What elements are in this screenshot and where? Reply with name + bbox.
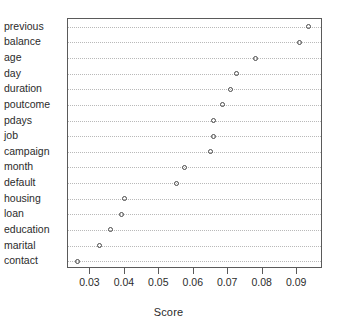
x-tick-mark [262,268,263,274]
data-point-education [108,227,113,232]
y-axis-labels: previousbalanceagedaydurationpoutcomepda… [0,18,63,268]
data-point-job [211,134,216,139]
data-point-age [253,56,258,61]
x-tick-mark [124,268,125,274]
y-tick-label-marital: marital [4,239,36,250]
y-tick-label-loan: loan [4,208,24,219]
y-tick-label-day: day [4,67,21,78]
y-tick-label-duration: duration [4,83,42,94]
data-point-previous [306,24,311,29]
dotplot-figure: previousbalanceagedaydurationpoutcomepda… [0,0,337,332]
x-axis: 0.030.040.050.060.070.080.09 [67,268,322,298]
y-tick-label-previous: previous [4,21,44,32]
data-point-poutcome [220,102,225,107]
y-tick-label-month: month [4,161,33,172]
y-tick-label-age: age [4,52,22,63]
data-point-campaign [208,149,213,154]
x-tick-mark [158,268,159,274]
data-point-duration [228,87,233,92]
x-tick-label: 0.04 [114,276,134,288]
y-tick-label-balance: balance [4,36,41,47]
data-point-month [182,165,187,170]
x-axis-title: Score [0,306,337,318]
data-point-default [174,181,179,186]
plot-frame [67,18,322,268]
x-tick-mark [296,268,297,274]
y-tick-label-campaign: campaign [4,146,50,157]
data-point-housing [122,196,127,201]
x-tick-mark [89,268,90,274]
data-points [68,19,321,267]
x-tick-label: 0.08 [251,276,271,288]
data-point-pdays [211,118,216,123]
x-tick-label: 0.07 [217,276,237,288]
x-tick-label: 0.09 [286,276,306,288]
data-point-loan [119,212,124,217]
y-tick-label-job: job [4,130,18,141]
y-tick-label-housing: housing [4,192,41,203]
y-tick-label-education: education [4,224,50,235]
x-tick-label: 0.05 [148,276,168,288]
y-tick-label-poutcome: poutcome [4,99,50,110]
y-tick-label-pdays: pdays [4,114,32,125]
y-tick-label-contact: contact [4,255,38,266]
x-tick-mark [227,268,228,274]
data-point-day [234,71,239,76]
x-tick-label: 0.03 [79,276,99,288]
data-point-balance [297,40,302,45]
x-tick-label: 0.06 [183,276,203,288]
data-point-contact [75,259,80,264]
x-tick-mark [193,268,194,274]
y-tick-label-default: default [4,177,36,188]
data-point-marital [97,243,102,248]
chart-title [0,1,337,13]
